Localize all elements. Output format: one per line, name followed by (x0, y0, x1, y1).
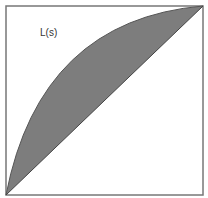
lorenz-chart (0, 0, 208, 198)
curve-label: L(s) (40, 27, 57, 38)
